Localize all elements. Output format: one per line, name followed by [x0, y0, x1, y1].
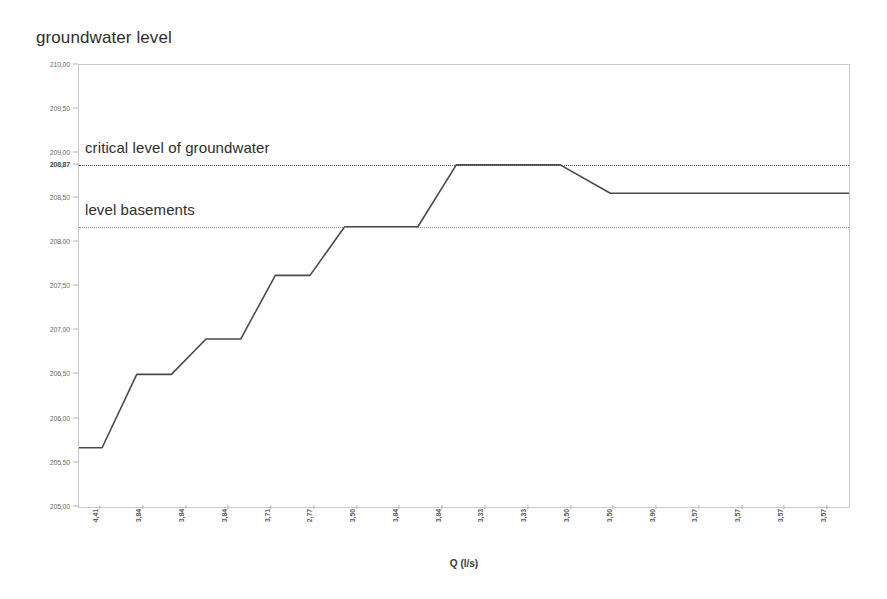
x-tick-label: 3,57 — [692, 509, 699, 522]
x-tick: 2,77 — [307, 509, 320, 549]
x-tick-label: 3,33 — [521, 509, 528, 522]
y-tick-label: 205,50 — [50, 458, 70, 465]
x-tick: 3,84 — [136, 509, 149, 549]
x-tick: 3,57 — [734, 509, 747, 549]
chart-figure: groundwater level 210,00209,50209,00208,… — [0, 0, 887, 599]
x-tick-label: 3,84 — [178, 509, 185, 522]
x-tick: 4,41 — [93, 509, 106, 549]
x-tick: 3,33 — [478, 509, 491, 549]
x-tick: 3,50 — [563, 509, 576, 549]
y-axis: 210,00209,50209,00208,87208,50208,00207,… — [0, 64, 76, 508]
chart-title: groundwater level — [36, 28, 172, 48]
x-tick-mark — [698, 505, 699, 509]
x-tick-label: 3,57 — [777, 509, 784, 522]
x-tick: 3,71 — [264, 509, 277, 549]
x-tick: 3,84 — [435, 509, 448, 549]
x-tick-label: 3,84 — [435, 509, 442, 522]
x-tick: 3,33 — [521, 509, 534, 549]
y-tick-label: 208,00 — [50, 237, 70, 244]
x-tick: 3,90 — [649, 509, 662, 549]
x-tick-label: 3,84 — [221, 509, 228, 522]
y-tick-label: 208,87 — [50, 160, 70, 167]
x-tick-label: 2,77 — [307, 509, 314, 522]
x-tick-label: 3,50 — [606, 509, 613, 522]
y-tick-label: 207,50 — [50, 282, 70, 289]
x-tick: 3,50 — [606, 509, 619, 549]
reference-line-critical-level-of-groundwater — [79, 165, 849, 166]
x-tick: 3,57 — [777, 509, 790, 549]
x-tick: 3,57 — [820, 509, 833, 549]
x-tick-label: 3,50 — [563, 509, 570, 522]
plot-inner: critical level of groundwaterlevel basem… — [79, 65, 849, 507]
x-tick-label: 3,84 — [392, 509, 399, 522]
x-tick-label: 3,71 — [264, 509, 271, 522]
annotation-critical-level-of-groundwater: critical level of groundwater — [85, 139, 270, 156]
annotation-level-basements: level basements — [85, 201, 195, 218]
y-tick-label: 205,00 — [50, 503, 70, 510]
x-tick-label: 3,33 — [478, 509, 485, 522]
x-tick: 3,84 — [221, 509, 234, 549]
plot-area: critical level of groundwaterlevel basem… — [78, 64, 850, 508]
y-tick-label: 209,00 — [50, 149, 70, 156]
x-tick-mark — [99, 505, 100, 509]
x-tick-label: 3,57 — [734, 509, 741, 522]
reference-line-level-basements — [79, 227, 849, 228]
x-tick-label: 3,57 — [820, 509, 827, 522]
series-line-groundwater-level — [79, 65, 849, 507]
x-tick-mark — [313, 505, 314, 509]
x-tick-label: 3,90 — [649, 509, 656, 522]
x-tick-mark — [484, 505, 485, 509]
x-tick: 3,84 — [392, 509, 405, 549]
x-axis: 4,413,843,843,843,712,773,503,843,843,33… — [78, 509, 850, 551]
y-tick-label: 206,00 — [50, 414, 70, 421]
y-tick-label: 208,50 — [50, 193, 70, 200]
x-tick-label: 4,41 — [93, 509, 100, 522]
x-tick-label: 3,50 — [349, 509, 356, 522]
x-axis-title: Q (l/s) — [78, 558, 850, 569]
y-tick-label: 206,50 — [50, 370, 70, 377]
x-tick-label: 3,84 — [136, 509, 143, 522]
x-tick: 3,84 — [178, 509, 191, 549]
y-tick-label: 209,50 — [50, 105, 70, 112]
x-tick: 3,50 — [349, 509, 362, 549]
y-tick-label: 210,00 — [50, 61, 70, 68]
y-tick-label: 207,00 — [50, 326, 70, 333]
x-tick: 3,57 — [692, 509, 705, 549]
